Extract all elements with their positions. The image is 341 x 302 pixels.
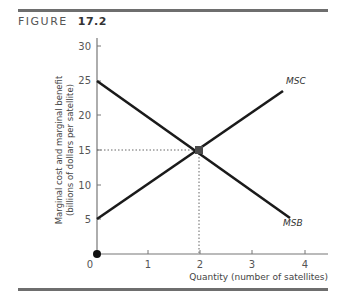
bottom-rule: [18, 288, 328, 291]
x-axis-label: Quantity (number of satellites): [189, 272, 328, 282]
x-tick-3: 3: [249, 259, 255, 270]
x-tick-1: 1: [145, 259, 151, 270]
y-axis-label-line1: Marginal cost and marginal benefit: [54, 75, 64, 224]
x-tick-2: 2: [197, 259, 203, 270]
y-tick-25: 25: [78, 75, 91, 86]
y-tick-5: 5: [85, 214, 91, 225]
equilibrium-point: [195, 146, 203, 154]
x-tick-4: 4: [302, 259, 308, 270]
msb-label: MSB: [283, 218, 303, 228]
y-axis-label-line2: (billions of dollars per satellite): [65, 84, 75, 216]
y-axis-label: Marginal cost and marginal benefit (bill…: [54, 75, 75, 224]
y-tick-30: 30: [78, 41, 91, 52]
y-tick-10: 10: [78, 180, 91, 191]
x-tick-0: 0: [87, 259, 93, 270]
y-tick-20: 20: [78, 110, 91, 121]
x-ticks: 0 1 2 3 4: [87, 250, 308, 270]
msc-label: MSC: [286, 76, 306, 86]
origin-marker: [93, 250, 101, 258]
chart: Marginal cost and marginal benefit (bill…: [0, 0, 341, 302]
y-tick-15: 15: [78, 145, 91, 156]
msc-curve: [97, 91, 283, 219]
